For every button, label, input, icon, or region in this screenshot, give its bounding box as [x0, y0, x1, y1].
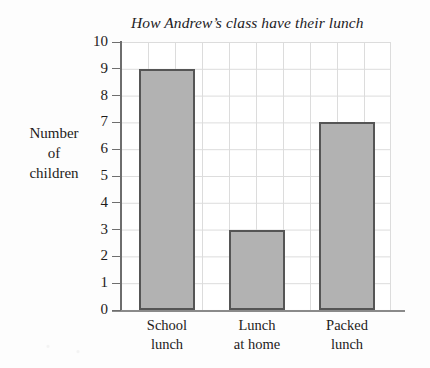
plot-right-edge	[390, 42, 391, 310]
y-axis-label-2: 2	[82, 248, 108, 263]
x-axis-label-3-line-1: Packed	[292, 316, 402, 335]
y-axis-tick-8	[112, 95, 121, 96]
y-axis-label-4: 4	[82, 195, 108, 210]
y-axis-tick-2	[112, 256, 121, 257]
y-axis-label-1: 1	[82, 275, 108, 290]
y-axis-tick-0	[112, 310, 121, 311]
bar-chart: How Andrew’s class have their lunch Numb…	[0, 0, 430, 368]
y-axis-label-9: 9	[82, 61, 108, 76]
scan-artifact	[36, 336, 96, 362]
y-axis-tick-10	[112, 42, 121, 43]
y-axis-tick-6	[112, 149, 121, 150]
y-axis-tick-3	[112, 229, 121, 230]
y-axis-label-3: 3	[82, 222, 108, 237]
y-axis-label-5: 5	[82, 168, 108, 183]
bar-2	[229, 230, 285, 310]
y-axis-label-8: 8	[82, 88, 108, 103]
y-axis-tick-1	[112, 283, 121, 284]
x-axis-line	[112, 310, 405, 312]
y-axis-label-6: 6	[82, 141, 108, 156]
y-axis-tick-4	[112, 202, 121, 203]
y-axis-label-7: 7	[82, 114, 108, 129]
bar-3	[319, 122, 375, 310]
y-axis-label-0: 0	[82, 302, 108, 317]
y-axis-tick-9	[112, 68, 121, 69]
chart-title: How Andrew’s class have their lunch	[131, 14, 421, 32]
y-axis-label-10: 10	[82, 34, 108, 49]
x-axis-label-3: Packedlunch	[292, 316, 402, 354]
x-axis-label-3-line-2: lunch	[292, 335, 402, 354]
bar-1	[139, 69, 195, 310]
y-axis-tick-5	[112, 176, 121, 177]
y-axis-tick-7	[112, 122, 121, 123]
